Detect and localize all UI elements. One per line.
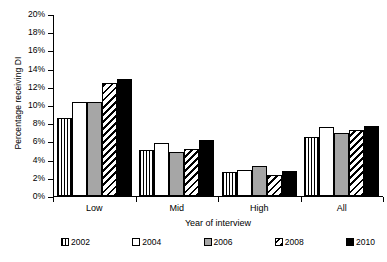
y-axis-tick: 6% xyxy=(48,142,53,143)
y-axis-tick-label: 20% xyxy=(28,9,45,19)
bar-high-2002 xyxy=(222,172,237,196)
bar-all-2002 xyxy=(304,137,319,196)
bar-mid-2010 xyxy=(199,140,214,196)
bar-mid-2002 xyxy=(139,150,154,196)
bar-mid-2004 xyxy=(154,143,169,196)
y-axis-tick: 12% xyxy=(48,88,53,89)
bar-low-2008 xyxy=(102,83,117,196)
y-axis-tick-label: 2% xyxy=(33,173,45,183)
y-axis-tick: 16% xyxy=(48,51,53,52)
bar-low-2006 xyxy=(87,102,102,196)
legend-swatch-icon xyxy=(346,238,354,246)
bar-low-2010 xyxy=(117,79,132,196)
bar-group-bars xyxy=(55,15,133,196)
y-axis-tick-label: 16% xyxy=(28,45,45,55)
bar-group xyxy=(55,15,133,196)
y-axis-title: Percentage receiving DI xyxy=(13,23,23,183)
legend-label: 2010 xyxy=(356,237,375,247)
legend-label: 2004 xyxy=(142,237,161,247)
bar-all-2010 xyxy=(364,126,379,196)
legend-item-2002[interactable]: 2002 xyxy=(61,237,90,247)
y-axis-tick: 14% xyxy=(48,70,53,71)
bar-all-2008 xyxy=(349,130,364,196)
x-axis-group-label-mid: Mid xyxy=(132,203,222,213)
plot-area: 0%2%4%6%8%10%12%14%16%18%20%LowMidHighAl… xyxy=(53,15,383,197)
y-axis-tick: 10% xyxy=(48,106,53,107)
x-axis-group-label-high: High xyxy=(214,203,304,213)
legend-label: 2008 xyxy=(285,237,304,247)
y-axis-line xyxy=(53,15,54,197)
x-axis-group-label-all: All xyxy=(297,203,387,213)
y-axis-tick-label: 6% xyxy=(33,136,45,146)
bar-group xyxy=(138,15,216,196)
y-axis-tick-label: 0% xyxy=(33,191,45,201)
bar-mid-2006 xyxy=(169,152,184,196)
bar-high-2010 xyxy=(282,171,297,196)
chart-legend: 20022004200620082010 xyxy=(53,237,383,247)
x-axis-tick xyxy=(53,197,54,202)
legend-swatch-icon xyxy=(132,238,140,246)
legend-swatch-icon xyxy=(61,238,69,246)
legend-label: 2002 xyxy=(71,237,90,247)
bar-high-2008 xyxy=(267,175,282,196)
x-axis-tick xyxy=(136,197,137,202)
y-axis-tick-label: 8% xyxy=(33,118,45,128)
y-axis-tick: 20% xyxy=(48,15,53,16)
bar-group xyxy=(220,15,298,196)
x-axis-tick xyxy=(383,197,384,202)
x-axis-group-label-low: Low xyxy=(49,203,139,213)
bar-all-2006 xyxy=(334,133,349,196)
legend-item-2008[interactable]: 2008 xyxy=(275,237,304,247)
y-axis-tick-label: 12% xyxy=(28,82,45,92)
legend-item-2004[interactable]: 2004 xyxy=(132,237,161,247)
y-axis-tick: 18% xyxy=(48,33,53,34)
legend-label: 2006 xyxy=(214,237,233,247)
legend-item-2006[interactable]: 2006 xyxy=(204,237,233,247)
bar-low-2004 xyxy=(72,102,87,196)
legend-item-2010[interactable]: 2010 xyxy=(346,237,375,247)
y-axis-tick-label: 4% xyxy=(33,155,45,165)
legend-swatch-icon xyxy=(275,238,283,246)
x-axis-tick xyxy=(218,197,219,202)
bar-low-2002 xyxy=(57,118,72,196)
y-axis-tick-label: 10% xyxy=(28,100,45,110)
x-axis-tick xyxy=(301,197,302,202)
bar-group-bars xyxy=(220,15,298,196)
bar-chart: Percentage receiving DI 0%2%4%6%8%10%12%… xyxy=(0,0,387,262)
x-axis-title: Year of interview xyxy=(53,218,383,228)
bar-group-bars xyxy=(303,15,381,196)
bar-mid-2008 xyxy=(184,149,199,196)
bar-high-2006 xyxy=(252,166,267,196)
y-axis-tick: 2% xyxy=(48,179,53,180)
y-axis-tick: 4% xyxy=(48,161,53,162)
bar-all-2004 xyxy=(319,127,334,196)
legend-swatch-icon xyxy=(204,238,212,246)
y-axis-tick: 8% xyxy=(48,124,53,125)
bar-group-bars xyxy=(138,15,216,196)
bar-high-2004 xyxy=(237,170,252,196)
bar-group xyxy=(303,15,381,196)
y-axis-tick-label: 18% xyxy=(28,27,45,37)
y-axis-tick-label: 14% xyxy=(28,64,45,74)
